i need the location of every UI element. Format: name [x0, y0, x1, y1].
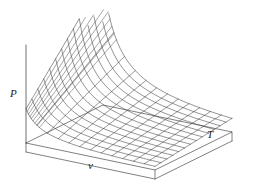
v-axis-label: v: [88, 160, 93, 171]
p-axis-label: P: [10, 88, 17, 99]
base-slab: [26, 105, 232, 179]
surface-plot-canvas: [0, 0, 253, 187]
t-axis-label: T: [207, 129, 213, 140]
surface-plot-figure: P v T: [0, 0, 253, 187]
wireframe-mesh: [26, 10, 232, 167]
